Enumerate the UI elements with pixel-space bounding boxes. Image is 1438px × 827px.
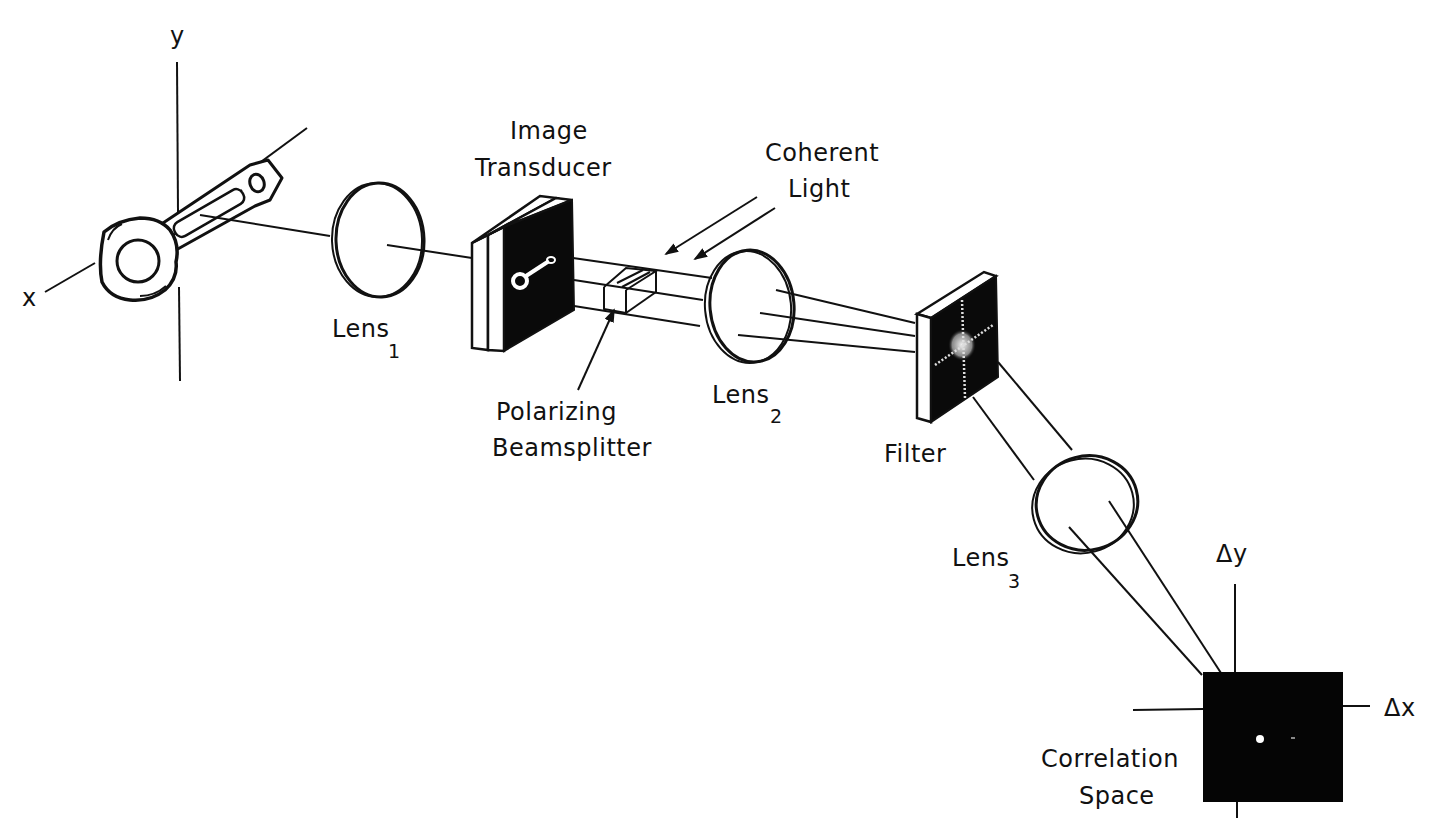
image-transducer: Image Transducer [472,117,612,351]
lens-1-subscript: 1 [388,340,400,362]
x-axis-left [45,263,95,292]
correlation-peak-dot [1256,735,1264,743]
filter-label: Filter [884,440,946,468]
coherent-light: Coherent Light [666,139,879,259]
x-axis-label: x [22,284,37,312]
lens-1-label: Lens [332,315,389,343]
fourier-filter: Filter [884,272,1072,480]
lens-2-subscript: 2 [770,405,782,427]
beamsplitter-arrow [578,310,614,390]
delta-x-axis-left [1133,709,1203,710]
optical-correlator-diagram: y x Lens 1 [0,0,1438,827]
lens-1: Lens 1 [330,181,472,362]
correlation-plane: Δy Δx Correlation Space [1041,540,1416,818]
light-arrow-1 [666,197,757,254]
light-label-line1: Coherent [765,139,879,167]
rod-big-end-bore [117,240,159,282]
lens-3: Lens 3 [952,444,1221,675]
y-axis-lower [179,287,180,381]
transducer-label-line1: Image [510,117,588,145]
splitter-label-line2: Beamsplitter [492,434,652,462]
correlation-label-line1: Correlation [1041,745,1179,773]
delta-x-label: Δx [1384,694,1416,722]
correlation-output-square [1203,672,1343,802]
splitter-label-line1: Polarizing [496,398,617,426]
transducer-label-line2: Transducer [474,154,612,182]
connecting-rod-object [100,160,282,300]
lens-2-label: Lens [712,381,769,409]
lens-3-subscript: 3 [1008,570,1020,592]
y-axis-upper [177,62,178,212]
y-axis-label: y [170,22,185,50]
beam-path-transducer-lens2 [573,258,712,326]
beam-lens1-transducer [387,245,472,258]
lens-2: Lens 2 [700,247,915,427]
delta-y-label: Δy [1216,540,1248,568]
light-label-line2: Light [788,175,850,203]
lens-3-label: Lens [952,544,1009,572]
correlation-label-line2: Space [1079,782,1155,810]
